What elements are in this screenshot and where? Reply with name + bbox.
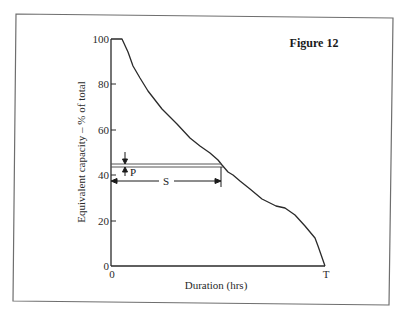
load-duration-curve (111, 39, 325, 266)
figure-title: Figure 12 (290, 36, 339, 50)
y-tick-label-60: 60 (98, 124, 110, 136)
x-tick-label-T: T (323, 268, 330, 280)
y-tick-label-40: 40 (98, 169, 110, 181)
y-tick-label-20: 20 (98, 215, 110, 227)
y-tick-label-80: 80 (98, 78, 110, 90)
y-axis-label: Equivalent capacity – % of total (75, 81, 87, 222)
y-ticks (111, 84, 116, 221)
s-label: S (163, 175, 169, 187)
x-tick-label-origin: 0 (109, 268, 115, 280)
figure-canvas: Figure 12 0 20 40 60 80 100 0 T Duration… (0, 0, 400, 320)
y-tick-label-100: 100 (93, 33, 110, 45)
x-axis-label: Duration (hrs) (185, 279, 248, 292)
figure-frame (13, 14, 393, 305)
p-label: P (130, 166, 136, 178)
